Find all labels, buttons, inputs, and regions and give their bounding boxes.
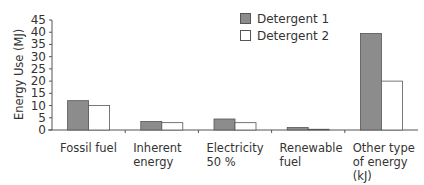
x-tick-label: Electricity50 % (206, 141, 263, 169)
bar-detergent-2 (235, 123, 256, 130)
legend-item-detergent-2: Detergent 2 (240, 27, 329, 44)
bar-detergent-1 (360, 33, 381, 130)
x-tick-label: Renewablefuel (280, 141, 343, 169)
bar-detergent-1 (141, 121, 162, 130)
y-tick-label: 30 (31, 50, 46, 64)
y-tick-label: 10 (31, 99, 46, 113)
x-tick-label: Other typeof energy(kJ) (353, 141, 415, 183)
y-tick-label: 35 (31, 37, 46, 51)
legend-label: Detergent 1 (257, 11, 329, 27)
bar-detergent-2 (89, 106, 110, 130)
bar-detergent-1 (214, 119, 235, 130)
legend-label: Detergent 2 (257, 28, 329, 44)
y-tick-label: 45 (31, 13, 46, 27)
legend-item-detergent-1: Detergent 1 (240, 10, 329, 27)
y-axis-label: Energy Use (MJ) (12, 30, 26, 120)
bar-detergent-2 (381, 81, 402, 130)
bar-detergent-1 (287, 128, 308, 130)
legend: Detergent 1 Detergent 2 (240, 10, 329, 44)
y-tick-label: 20 (31, 74, 46, 88)
y-tick-label: 0 (38, 123, 46, 137)
y-tick-label: 5 (38, 111, 46, 125)
bar-detergent-2 (308, 129, 329, 130)
y-tick-label: 25 (31, 62, 46, 76)
bar-detergent-2 (162, 123, 183, 130)
bar-detergent-1 (68, 101, 89, 130)
x-tick-label: Fossil fuel (60, 141, 117, 155)
legend-swatch-detergent-2 (240, 30, 251, 41)
y-tick-label: 15 (31, 86, 46, 100)
legend-swatch-detergent-1 (240, 13, 251, 24)
x-tick-label: Inherentenergy (133, 141, 181, 169)
y-tick-label: 40 (31, 25, 46, 39)
